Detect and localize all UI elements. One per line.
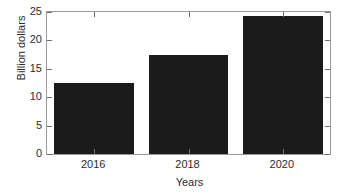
x-axis-title: Years — [0, 176, 345, 188]
x-tick-label: 2020 — [270, 158, 294, 170]
y-axis-title: Billion dollars — [15, 0, 27, 113]
x-tick-label: 2018 — [175, 158, 199, 170]
x-tick-label: 2016 — [81, 158, 105, 170]
x-tick-labels: 201620182020 — [0, 0, 345, 196]
x-axis-title-text: Years — [176, 176, 204, 188]
bar-chart-figure: 0510152025 201620182020 Years Billion do… — [0, 0, 345, 196]
